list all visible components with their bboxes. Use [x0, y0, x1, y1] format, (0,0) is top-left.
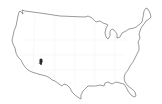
us-border-outline — [12, 8, 151, 99]
us-map: Contiguous United States Arizona — [0, 0, 162, 104]
us-outline — [0, 0, 162, 104]
